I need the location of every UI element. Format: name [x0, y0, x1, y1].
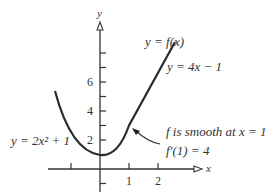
curve-label: y = f(x)	[145, 35, 184, 48]
annotation-arrow	[136, 131, 160, 144]
y-axis-arrow-icon	[97, 22, 103, 30]
x-tick-label-2: 2	[155, 175, 161, 187]
y-tick-label-4: 4	[87, 105, 93, 117]
tangent-line-label: y = 4x − 1	[167, 60, 222, 73]
y-tick-label-6: 6	[87, 76, 93, 88]
x-ticks	[71, 163, 158, 169]
y-ticks	[100, 53, 106, 184]
x-tick-label-1: 1	[126, 175, 132, 187]
y-axis-label: y	[97, 8, 102, 19]
graph	[0, 0, 280, 196]
derivative-annotation: f′(1) = 4	[166, 144, 209, 157]
parabola-label: y = 2x² + 1	[11, 134, 70, 147]
x-axis-label: x	[206, 163, 211, 174]
function-curve	[55, 42, 175, 155]
y-tick-label-2: 2	[87, 134, 93, 146]
smoothness-annotation: f is smooth at x = 1	[166, 125, 267, 138]
x-axis-arrow-icon	[194, 166, 202, 172]
